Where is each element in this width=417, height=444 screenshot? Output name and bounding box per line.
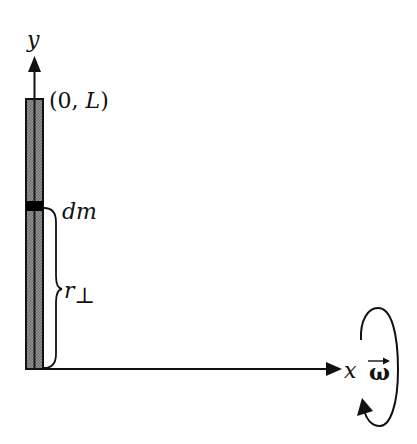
rod-rotation-diagram: y (0, L) dm r⊥ x ω: [0, 0, 417, 444]
top-point-label: (0, L): [49, 88, 109, 113]
svg-text:ω: ω: [369, 359, 390, 385]
mass-element-label: dm: [62, 199, 97, 224]
mass-element-band: [26, 201, 43, 211]
y-axis-arrowhead-icon: [28, 56, 41, 72]
x-axis-label: x: [344, 358, 357, 383]
y-axis-label: y: [26, 27, 40, 52]
x-axis: [26, 362, 342, 376]
angular-velocity-label: ω: [368, 358, 390, 386]
x-axis-arrowhead-icon: [326, 362, 342, 376]
perp-distance-label: r⊥: [64, 278, 95, 308]
perp-distance-brace: [44, 208, 62, 368]
rod: [26, 99, 43, 369]
